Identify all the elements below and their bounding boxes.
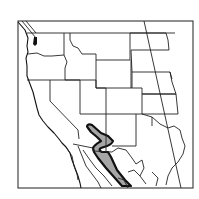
range-map — [0, 0, 199, 199]
